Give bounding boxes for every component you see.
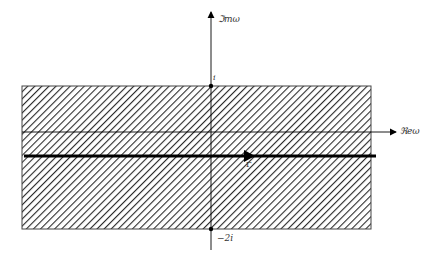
point-minus-2i-label: −2i xyxy=(217,233,233,243)
complex-plane-diagram xyxy=(0,0,439,265)
point-i-label: i xyxy=(213,73,216,82)
imaginary-axis-label: ℑmω xyxy=(218,14,240,24)
point-i xyxy=(209,84,213,88)
real-axis-label: ℜeω xyxy=(400,126,420,136)
contour-label: Γ xyxy=(246,160,252,169)
point-minus-2i xyxy=(209,227,213,231)
